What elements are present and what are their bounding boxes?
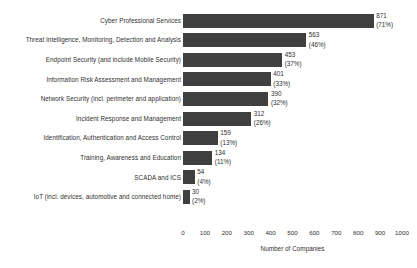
bar-percent: (2%): [192, 196, 205, 205]
bar-percent: (11%): [215, 157, 231, 166]
bar: [183, 53, 282, 67]
bar-row: Incident Response and Management312(26%): [0, 109, 417, 129]
category-label: Threat Intelligence, Monitoring, Detecti…: [26, 37, 181, 43]
category-label: Information Risk Assessment and Manageme…: [46, 76, 181, 82]
bar-value-label: 30(2%): [192, 187, 205, 206]
bar-percent: (4%): [197, 177, 210, 186]
bar-row: Training, Awareness and Education134(11%…: [0, 148, 417, 168]
bar-row: Network Security (incl. perimeter and ap…: [0, 89, 417, 109]
x-tick-label: 700: [331, 229, 341, 236]
category-label: Training, Awareness and Education: [80, 155, 181, 161]
category-label: Identification, Authentication and Acces…: [43, 135, 181, 141]
x-tick-label: 800: [353, 229, 363, 236]
x-tick-label: 1000: [395, 229, 409, 236]
category-label: Endpoint Security (and include Mobile Se…: [46, 57, 181, 63]
bar-percent: (13%): [220, 138, 237, 147]
bar-value: 312: [254, 109, 271, 118]
bar-value-label: 563(46%): [309, 30, 326, 49]
bar-row: Threat Intelligence, Monitoring, Detecti…: [0, 31, 417, 51]
bar-value-label: 54(4%): [197, 167, 210, 186]
bar-value: 390: [271, 89, 288, 98]
bar-value: 453: [285, 50, 302, 59]
x-tick-label: 300: [244, 229, 254, 236]
bar: [183, 33, 306, 47]
x-tick-label: 900: [375, 229, 385, 236]
bar-row: Identification, Authentication and Acces…: [0, 129, 417, 149]
bar: [183, 190, 190, 204]
bar: [183, 112, 251, 126]
x-tick-label: 500: [287, 229, 297, 236]
bar-value-label: 159(13%): [220, 128, 237, 147]
bar-value-label: 453(37%): [285, 50, 302, 69]
category-label: Network Security (incl. perimeter and ap…: [41, 96, 181, 102]
bar-percent: (32%): [271, 98, 288, 107]
x-tick-label: 100: [200, 229, 210, 236]
bar-row: Endpoint Security (and include Mobile Se…: [0, 50, 417, 70]
bar-value-label: 312(26%): [254, 109, 271, 128]
bar-value: 54: [197, 167, 210, 176]
x-tick-label: 600: [309, 229, 319, 236]
bar-percent: (71%): [376, 20, 393, 29]
bar: [183, 92, 268, 106]
bar: [183, 131, 218, 145]
x-axis: 01002003004005006007008009001000: [183, 229, 402, 241]
bar-value-label: 390(32%): [271, 89, 288, 108]
plot-area: Cyber Professional Services871(71%)Threa…: [0, 0, 417, 226]
bar: [183, 72, 271, 86]
bar-value: 134: [215, 148, 231, 157]
bar-value-label: 871(71%): [376, 11, 393, 30]
bar-row: Information Risk Assessment and Manageme…: [0, 70, 417, 90]
bar: [183, 14, 374, 28]
bar-value: 30: [192, 187, 205, 196]
category-label: SCADA and ICS: [134, 174, 181, 180]
bar-row: SCADA and ICS54(4%): [0, 168, 417, 188]
bar-row: Cyber Professional Services871(71%): [0, 11, 417, 31]
x-tick-label: 400: [265, 229, 275, 236]
bar-percent: (37%): [285, 59, 302, 68]
bar-percent: (46%): [309, 40, 326, 49]
category-label: Cyber Professional Services: [100, 18, 181, 24]
bar-row: IoT (incl. devices, automotive and conne…: [0, 187, 417, 207]
bar-percent: (33%): [273, 79, 290, 88]
bar-value: 159: [220, 128, 237, 137]
bar-value-label: 401(33%): [273, 69, 290, 88]
x-tick-label: 200: [222, 229, 232, 236]
bar: [183, 170, 195, 184]
bar-value-label: 134(11%): [215, 148, 231, 167]
bar-value: 401: [273, 69, 290, 78]
bar: [183, 151, 212, 165]
x-axis-title: Number of Companies: [183, 245, 402, 252]
category-label: IoT (incl. devices, automotive and conne…: [34, 194, 181, 200]
bar-chart: Cyber Professional Services871(71%)Threa…: [0, 0, 417, 268]
bar-value: 563: [309, 30, 326, 39]
bar-percent: (26%): [254, 118, 271, 127]
bar-value: 871: [376, 11, 393, 20]
category-label: Incident Response and Management: [76, 116, 181, 122]
x-tick-label: 0: [181, 229, 184, 236]
